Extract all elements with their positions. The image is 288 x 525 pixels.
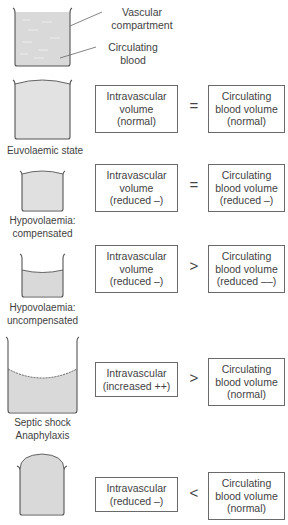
row3-circulating-line2: blood volume bbox=[215, 263, 277, 276]
row3-intravascular-line3: (reduced –) bbox=[110, 275, 164, 288]
legend-circulating-line1: Circulating bbox=[96, 41, 170, 54]
row3-state-label: Hypovolaemia: uncompensated bbox=[0, 302, 85, 327]
row4-circulating-line1: Circulating bbox=[222, 363, 272, 376]
row1-circulating-line1: Circulating bbox=[222, 90, 272, 103]
row3-intravascular-box: Intravascular volume (reduced –) bbox=[95, 245, 178, 293]
row1-intravascular-box: Intravascular volume (normal) bbox=[95, 85, 178, 133]
euvolaemic-vessel-icon bbox=[0, 75, 80, 155]
row1-circulating-line2: blood volume bbox=[215, 103, 277, 116]
row3-intravascular-line1: Intravascular bbox=[106, 250, 166, 263]
row4-intravascular-line1: Intravascular bbox=[106, 367, 166, 380]
row4-state-label: Septic shock Anaphylaxis bbox=[0, 417, 85, 442]
row2-circulating-line2: blood volume bbox=[215, 182, 277, 195]
row4-state-line1: Septic shock bbox=[0, 417, 85, 430]
row2-circulating-line3: (reduced –) bbox=[220, 194, 274, 207]
row2-circulating-box: Circulating blood volume (reduced –) bbox=[208, 164, 285, 212]
row5-circulating-line1: Circulating bbox=[222, 477, 272, 490]
row4-circulating-box: Circulating blood volume (normal) bbox=[208, 358, 285, 406]
row5-operator: < bbox=[186, 484, 202, 501]
row5-intravascular-line1: Intravascular bbox=[106, 482, 166, 495]
row4-circulating-line2: blood volume bbox=[215, 376, 277, 389]
row1-intravascular-line1: Intravascular bbox=[106, 90, 166, 103]
row1-circulating-box: Circulating blood volume (normal) bbox=[208, 85, 285, 133]
row5-circulating-line3: (normal) bbox=[227, 502, 266, 515]
row1-state-line1: Euvolaemic state bbox=[0, 145, 90, 158]
row2-state-label: Hypovolaemia: compensated bbox=[0, 215, 85, 240]
row3-intravascular-line2: volume bbox=[120, 263, 154, 276]
row4-circulating-line3: (normal) bbox=[227, 388, 266, 401]
row4-state-line2: Anaphylaxis bbox=[0, 430, 85, 443]
row2-intravascular-box: Intravascular volume (reduced –) bbox=[95, 164, 178, 212]
row3-circulating-box: Circulating blood volume (reduced ––) bbox=[208, 245, 285, 293]
row5-circulating-line2: blood volume bbox=[215, 490, 277, 503]
row2-operator: = bbox=[186, 176, 202, 193]
row3-circulating-line1: Circulating bbox=[222, 250, 272, 263]
row1-intravascular-line3: (normal) bbox=[117, 115, 156, 128]
row4-operator: > bbox=[186, 369, 202, 386]
row2-state-line1: Hypovolaemia: bbox=[0, 215, 85, 228]
row4-intravascular-box: Intravascular (increased ++) bbox=[95, 362, 178, 397]
row2-intravascular-line3: (reduced –) bbox=[110, 194, 164, 207]
uncompensated-vessel-icon bbox=[0, 250, 80, 300]
row1-state-label: Euvolaemic state bbox=[0, 145, 90, 158]
legend-vascular-line2: compartment bbox=[102, 19, 182, 32]
row5-intravascular-line2: (reduced –) bbox=[110, 495, 164, 508]
row3-state-line1: Hypovolaemia: bbox=[0, 302, 85, 315]
row5-intravascular-box: Intravascular (reduced –) bbox=[95, 477, 178, 512]
row1-circulating-line3: (normal) bbox=[227, 115, 266, 128]
row1-intravascular-line2: volume bbox=[120, 103, 154, 116]
legend-circulating-blood-label: Circulating blood bbox=[96, 41, 170, 66]
overfilled-vessel-icon bbox=[0, 450, 80, 525]
legend-vascular-compartment-label: Vascular compartment bbox=[102, 6, 182, 31]
legend-circulating-line2: blood bbox=[96, 54, 170, 67]
row2-intravascular-line1: Intravascular bbox=[106, 169, 166, 182]
row5-circulating-box: Circulating blood volume (normal) bbox=[208, 472, 285, 520]
row2-state-line2: compensated bbox=[0, 228, 85, 241]
row3-circulating-line3: (reduced ––) bbox=[217, 275, 277, 288]
row2-intravascular-line2: volume bbox=[120, 182, 154, 195]
row3-operator: > bbox=[186, 257, 202, 274]
row1-operator: = bbox=[186, 97, 202, 114]
row3-state-line2: uncompensated bbox=[0, 315, 85, 328]
row4-intravascular-line2: (increased ++) bbox=[103, 380, 171, 393]
row2-circulating-line1: Circulating bbox=[222, 169, 272, 182]
legend-vascular-line1: Vascular bbox=[102, 6, 182, 19]
septic-vessel-icon bbox=[0, 335, 85, 415]
